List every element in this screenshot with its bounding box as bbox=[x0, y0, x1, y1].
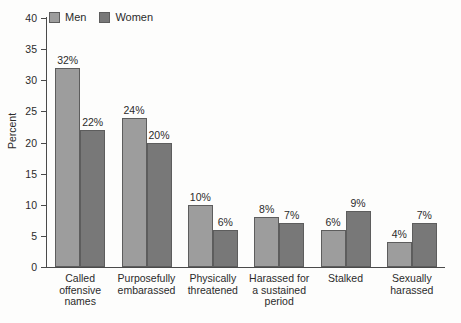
y-tick-mark bbox=[41, 18, 47, 19]
bar-women bbox=[147, 143, 172, 268]
category-label-line: Called bbox=[43, 273, 117, 285]
category-label-line: Purposefully bbox=[109, 273, 183, 285]
y-tick-label-wrap: 0 bbox=[11, 262, 37, 272]
y-tick-mark bbox=[41, 80, 47, 81]
y-tick-label: 35 bbox=[11, 44, 37, 55]
bar-value-label: 32% bbox=[49, 55, 86, 66]
category-label: Calledoffensivenames bbox=[43, 273, 117, 308]
category-label: Purposefullyembarassed bbox=[109, 273, 183, 296]
legend-swatch-men-icon bbox=[49, 12, 60, 23]
bar-men bbox=[387, 242, 412, 267]
y-tick-label: 5 bbox=[11, 231, 37, 242]
bar-chart: Men Women 0510152025303540 Percent 32%22… bbox=[0, 0, 461, 323]
bar-women bbox=[279, 223, 304, 267]
category-label-line: threatened bbox=[176, 285, 250, 297]
y-tick-label-wrap: 35 bbox=[11, 44, 37, 54]
bar-value-label: 9% bbox=[340, 198, 377, 209]
category-label-line: Physically bbox=[176, 273, 250, 285]
y-tick-mark bbox=[41, 174, 47, 175]
legend-item-women: Women bbox=[99, 12, 153, 23]
category-label: Stalked bbox=[308, 273, 382, 285]
bar-men bbox=[55, 68, 80, 267]
legend-label-women: Women bbox=[115, 12, 153, 23]
bar-women bbox=[213, 230, 238, 267]
y-tick-label: 30 bbox=[11, 75, 37, 86]
y-tick-label-wrap: 5 bbox=[11, 231, 37, 241]
category-label-line: harassed bbox=[375, 285, 449, 297]
bar-value-label: 7% bbox=[406, 210, 443, 221]
bar-women bbox=[80, 130, 105, 267]
y-tick-label-wrap: 40 bbox=[11, 13, 37, 23]
y-tick-label: 10 bbox=[11, 200, 37, 211]
bar-value-label: 22% bbox=[74, 117, 111, 128]
y-tick-label: 40 bbox=[11, 13, 37, 24]
bar-men bbox=[122, 118, 147, 267]
y-tick-mark bbox=[41, 267, 47, 268]
bar-women bbox=[346, 211, 371, 267]
category-label-line: Harassed for bbox=[242, 273, 316, 285]
y-axis-title: Percent bbox=[6, 96, 18, 166]
y-tick-mark bbox=[41, 49, 47, 50]
chart-legend: Men Women bbox=[49, 12, 153, 23]
y-tick-mark bbox=[41, 111, 47, 112]
y-tick-mark bbox=[41, 205, 47, 206]
bar-men bbox=[321, 230, 346, 267]
legend-item-men: Men bbox=[49, 12, 86, 23]
legend-label-men: Men bbox=[65, 12, 86, 23]
y-tick-label: 0 bbox=[11, 262, 37, 273]
x-axis-line bbox=[47, 267, 445, 268]
category-label: Physicallythreatened bbox=[176, 273, 250, 296]
category-label-line: embarassed bbox=[109, 285, 183, 297]
bar-men bbox=[188, 205, 213, 267]
y-tick-mark bbox=[41, 236, 47, 237]
category-label-line: period bbox=[242, 296, 316, 308]
category-label-line: Sexually bbox=[375, 273, 449, 285]
y-tick-label-wrap: 15 bbox=[11, 169, 37, 179]
legend-swatch-women-icon bbox=[99, 12, 110, 23]
y-tick-label-wrap: 10 bbox=[11, 200, 37, 210]
category-label-line: names bbox=[43, 296, 117, 308]
bar-value-label: 20% bbox=[141, 130, 178, 141]
bar-value-label: 6% bbox=[207, 217, 244, 228]
category-label: Sexuallyharassed bbox=[375, 273, 449, 296]
bar-women bbox=[412, 223, 437, 267]
category-label: Harassed fora sustainedperiod bbox=[242, 273, 316, 308]
bar-value-label: 24% bbox=[116, 105, 153, 116]
bar-men bbox=[254, 217, 279, 267]
bar-value-label: 10% bbox=[182, 192, 219, 203]
y-tick-mark bbox=[41, 143, 47, 144]
y-tick-label-wrap: 30 bbox=[11, 75, 37, 85]
y-tick-label: 15 bbox=[11, 169, 37, 180]
bar-value-label: 7% bbox=[273, 210, 310, 221]
category-label-line: Stalked bbox=[308, 273, 382, 285]
